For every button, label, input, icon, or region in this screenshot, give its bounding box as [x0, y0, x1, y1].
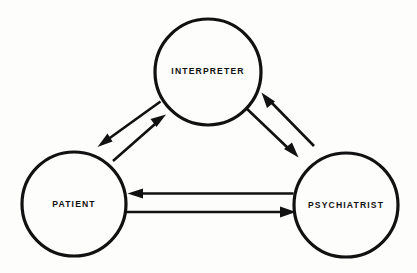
- arrowhead-left-icon: [128, 189, 144, 199]
- node-interpreter[interactable]: [155, 19, 261, 125]
- diagram-canvas: [0, 0, 417, 273]
- edge-interpreter-to-patient: [98, 102, 161, 148]
- triad-diagram: INTERPRETER PATIENT PSYCHIATRIST: [0, 0, 417, 273]
- edge-psychiatrist-to-patient: [128, 189, 294, 199]
- edge-patient-to-psychiatrist: [126, 207, 296, 218]
- node-patient[interactable]: [22, 152, 126, 256]
- edge-interpreter-to-psychiatrist: [245, 107, 299, 158]
- node-psychiatrist[interactable]: [294, 153, 398, 257]
- edge-psychiatrist-to-interpreter: [262, 93, 315, 147]
- arrowhead-down-left-icon: [98, 134, 113, 148]
- edge-line: [113, 121, 159, 161]
- edge-patient-to-interpreter: [113, 115, 166, 162]
- edge-line: [270, 101, 315, 147]
